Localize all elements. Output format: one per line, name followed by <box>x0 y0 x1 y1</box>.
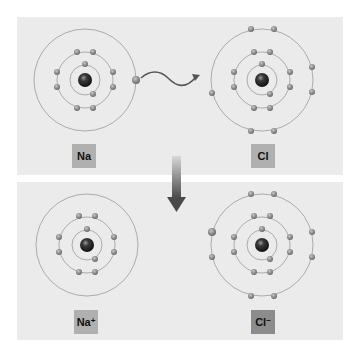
nucleus <box>78 73 92 87</box>
valence-electron <box>132 76 140 84</box>
chloride-ion <box>208 191 315 299</box>
label-na-plus: Na+ <box>74 310 98 334</box>
nucleus <box>255 73 269 87</box>
label-na-plus-text: Na <box>77 316 91 328</box>
wavy-arrow-icon <box>141 72 200 85</box>
chlorine-atom <box>209 26 315 134</box>
label-cl: Cl <box>251 144 275 168</box>
label-cl-minus: Cl− <box>251 310 275 334</box>
label-na-text: Na <box>77 150 91 162</box>
sodium-ion <box>36 194 138 296</box>
label-na: Na <box>72 144 96 168</box>
nucleus <box>255 238 269 252</box>
nucleus <box>80 238 94 252</box>
sodium-atom <box>34 29 140 131</box>
down-arrow-icon <box>167 156 186 212</box>
label-cl-minus-text: Cl <box>255 316 266 328</box>
ionic-bond-diagram <box>0 0 356 352</box>
gained-electron <box>208 228 216 236</box>
label-cl-text: Cl <box>258 150 269 162</box>
